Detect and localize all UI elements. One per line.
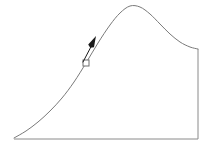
curve-diagram-svg: [0, 0, 210, 148]
figure-canvas: Skewed unimodal curve with marker annota…: [0, 0, 210, 148]
distribution-curve: [14, 6, 198, 138]
pointer-arrow-head-icon: [88, 36, 96, 48]
